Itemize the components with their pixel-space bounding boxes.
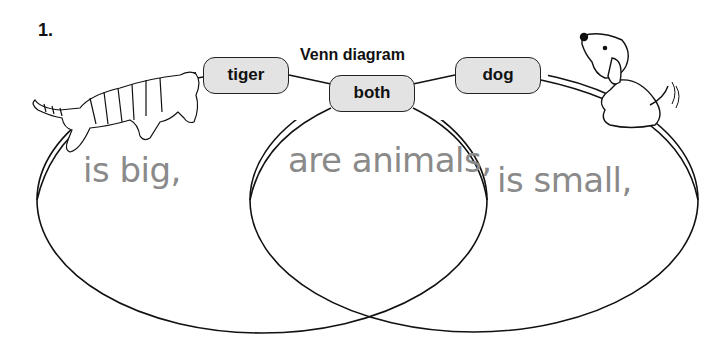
- label-tiger: tiger: [203, 57, 289, 94]
- dog-illustration: [581, 34, 680, 128]
- diagram-title: Venn diagram: [300, 46, 405, 64]
- label-both: both: [329, 75, 415, 112]
- label-dog: dog: [455, 57, 541, 94]
- tiger-illustration: [33, 72, 199, 152]
- phrase-both: are animals,: [288, 140, 492, 180]
- phrase-dog: is small,: [497, 160, 632, 200]
- problem-number: 1.: [38, 20, 53, 41]
- phrase-tiger: is big,: [83, 150, 181, 190]
